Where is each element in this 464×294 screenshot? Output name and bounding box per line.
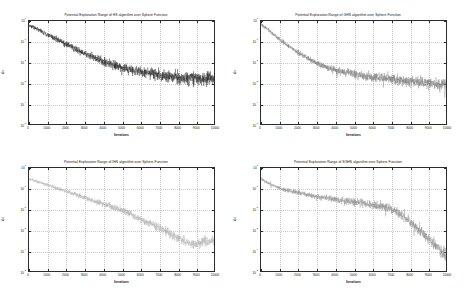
chart-title: Potential Exploration Range of IHS algor… [0,160,232,165]
x-tick-label: 3000 [313,126,320,130]
x-axis-label: Iterations [260,280,447,284]
x-tick-label: 3000 [81,273,88,277]
y-tick-label: 10-5 [244,122,258,127]
x-tick-label: 2000 [62,126,69,130]
x-tick-label: 4000 [99,126,106,130]
y-tick-label: 10-3 [12,227,26,232]
x-tick-label: 10000 [443,273,452,277]
y-tick-label: 10-2 [12,206,26,211]
x-tick-label: 8000 [406,273,413,277]
y-tick-label: 10-4 [12,101,26,106]
y-tick-label: 10-2 [244,59,258,64]
x-tick-label: 9000 [193,126,200,130]
x-tick-label: 3000 [313,273,320,277]
y-tick-label: 10-1 [12,38,26,43]
x-tick-label: 9000 [425,273,432,277]
x-tick-label: 6000 [369,126,376,130]
chart-panel: Potential Exploration Range of HS algori… [0,0,232,147]
y-tick-label: 100 [244,164,258,169]
x-tick-label: 5000 [118,126,125,130]
y-tick-label: 10-5 [12,269,26,274]
x-tick-label: 1000 [275,273,282,277]
data-trace [29,21,214,124]
x-tick-label: 8000 [174,273,181,277]
x-tick-label: 7000 [387,273,394,277]
y-tick-label: 100 [12,17,26,22]
chart-title: Potential Exploration Range of HS algori… [0,13,232,18]
chart-panel: Potential Exploration Range of GHS algor… [232,0,464,147]
y-tick-label: 10-1 [12,185,26,190]
y-tick-label: 10-4 [244,248,258,253]
x-tick-label: 7000 [155,273,162,277]
y-axis-label: Δx [1,217,5,221]
x-tick-label: 8000 [174,126,181,130]
x-tick-label: 1000 [43,273,50,277]
y-tick-label: 10-4 [244,101,258,106]
x-tick-label: 10000 [211,273,220,277]
x-tick-label: 10000 [211,126,220,130]
y-tick-label: 100 [12,164,26,169]
x-axis-label: Iterations [260,133,447,137]
y-tick-label: 100 [244,17,258,22]
data-trace [29,168,214,271]
x-tick-label: 5000 [350,273,357,277]
x-tick-label: 4000 [331,126,338,130]
plot-area [28,20,215,125]
x-tick-label: 4000 [331,273,338,277]
subplot-grid: Potential Exploration Range of HS algori… [0,0,464,294]
x-tick-label: 9000 [425,126,432,130]
y-tick-label: 10-2 [244,206,258,211]
x-tick-label: 5000 [350,126,357,130]
x-tick-label: 6000 [137,126,144,130]
y-tick-label: 10-4 [12,248,26,253]
data-trace [261,168,446,271]
y-tick-label: 10-3 [244,80,258,85]
x-tick-label: 3000 [81,126,88,130]
x-tick-label: 6000 [369,273,376,277]
y-tick-label: 10-5 [244,269,258,274]
x-tick-label: 5000 [118,273,125,277]
x-tick-label: 0 [259,126,261,130]
x-tick-label: 10000 [443,126,452,130]
chart-panel: Potential Exploration Range of IHS algor… [0,147,232,294]
x-axis-label: Iterations [28,133,215,137]
chart-panel: Potential Exploration Range of SGHS algo… [232,147,464,294]
plot-area [260,167,447,272]
x-tick-label: 2000 [62,273,69,277]
data-trace [261,21,446,124]
y-tick-label: 10-1 [244,185,258,190]
x-tick-label: 1000 [43,126,50,130]
x-tick-label: 4000 [99,273,106,277]
y-tick-label: 10-2 [12,59,26,64]
x-tick-label: 0 [27,126,29,130]
x-tick-label: 7000 [155,126,162,130]
x-tick-label: 7000 [387,126,394,130]
x-tick-label: 0 [27,273,29,277]
x-tick-label: 2000 [294,273,301,277]
y-axis-label: Δx [233,217,237,221]
y-tick-label: 10-5 [12,122,26,127]
chart-title: Potential Exploration Range of SGHS algo… [232,160,464,165]
plot-area [28,167,215,272]
y-tick-label: 10-3 [12,80,26,85]
plot-area [260,20,447,125]
y-tick-label: 10-3 [244,227,258,232]
x-tick-label: 6000 [137,273,144,277]
x-axis-label: Iterations [28,280,215,284]
x-tick-label: 8000 [406,126,413,130]
chart-title: Potential Exploration Range of GHS algor… [232,13,464,18]
y-tick-label: 10-1 [244,38,258,43]
x-tick-label: 1000 [275,126,282,130]
x-tick-label: 2000 [294,126,301,130]
y-axis-label: Δx [233,70,237,74]
x-tick-label: 0 [259,273,261,277]
x-tick-label: 9000 [193,273,200,277]
y-axis-label: Δx [1,70,5,74]
